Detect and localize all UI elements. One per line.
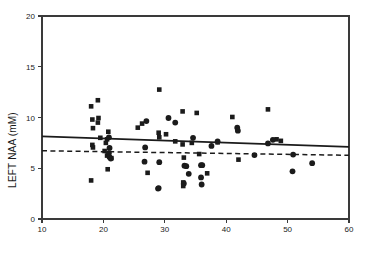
x-tick-label: 20 xyxy=(99,225,108,234)
dashed-regression-line xyxy=(42,151,349,155)
data-point-square xyxy=(91,145,96,150)
data-point-circle xyxy=(198,174,204,180)
y-axis-title: LEFT NAA (mM) xyxy=(7,112,18,188)
data-point-square xyxy=(90,117,95,122)
data-point-square xyxy=(197,152,202,157)
data-point-circle xyxy=(142,159,148,165)
data-point-circle xyxy=(209,143,215,149)
x-tick-label: 30 xyxy=(160,225,169,234)
data-point-square xyxy=(279,139,284,144)
y-tick-label: 10 xyxy=(26,114,35,123)
data-point-circle xyxy=(142,145,148,151)
data-point-square xyxy=(164,132,169,137)
y-tick-label: 5 xyxy=(31,164,36,173)
data-point-square xyxy=(145,171,150,176)
data-point-square xyxy=(173,139,178,144)
data-point-square xyxy=(91,126,96,131)
data-point-circle xyxy=(106,134,112,140)
axes-frame xyxy=(42,16,349,219)
data-point-circle xyxy=(270,137,276,143)
scatter-plot-figure: 102030405060 05101520 LEFT NAA (mM) xyxy=(0,0,371,258)
data-point-circle xyxy=(235,128,241,134)
data-point-circle xyxy=(190,135,196,141)
y-axis-title-group: LEFT NAA (mM) xyxy=(7,112,18,188)
data-point-square xyxy=(96,120,101,125)
data-point-square xyxy=(205,171,210,176)
y-tick-label: 0 xyxy=(31,215,36,224)
x-tick-label: 10 xyxy=(38,225,47,234)
data-point-circle xyxy=(215,138,221,144)
data-point-circle xyxy=(309,160,315,166)
data-point-circle xyxy=(265,140,271,146)
data-point-circle xyxy=(107,145,113,151)
plot-canvas: 102030405060 05101520 LEFT NAA (mM) xyxy=(0,0,371,258)
data-point-square xyxy=(180,109,185,114)
axis-frame-path xyxy=(42,16,349,219)
data-point-square xyxy=(135,125,140,130)
x-tick-label: 40 xyxy=(222,225,231,234)
data-point-square xyxy=(89,178,94,183)
data-point-square xyxy=(156,130,161,135)
data-point-circle xyxy=(199,162,205,168)
data-point-circle xyxy=(108,156,114,162)
y-tick-label: 15 xyxy=(26,63,35,72)
data-point-square xyxy=(236,157,241,162)
data-point-circle xyxy=(143,118,149,124)
data-point-square xyxy=(230,115,235,120)
data-point-square xyxy=(180,142,185,147)
data-point-circle xyxy=(186,171,192,177)
data-point-circle xyxy=(183,163,189,169)
data-point-square xyxy=(157,135,162,140)
data-point-circle xyxy=(181,181,187,187)
data-point-circle xyxy=(172,120,178,126)
data-point-circle xyxy=(156,159,162,165)
data-point-square xyxy=(105,167,110,172)
data-point-square xyxy=(98,136,103,141)
data-point-square xyxy=(182,155,187,160)
y-tick-label: 20 xyxy=(26,12,35,21)
data-point-circle xyxy=(156,185,162,191)
data-point-circle xyxy=(290,168,296,174)
x-tick-label: 60 xyxy=(345,225,354,234)
y-axis-ticks: 05101520 xyxy=(26,12,42,224)
data-point-square xyxy=(157,87,162,92)
data-point-circle xyxy=(252,152,258,158)
x-tick-label: 50 xyxy=(283,225,292,234)
data-point-square xyxy=(190,141,195,146)
data-point-square xyxy=(89,104,94,109)
data-point-square xyxy=(96,116,101,121)
data-point-square xyxy=(194,111,199,116)
data-point-square xyxy=(266,107,271,112)
data-point-square xyxy=(96,98,101,103)
data-point-square xyxy=(106,129,111,134)
data-point-circle xyxy=(199,182,205,188)
data-point-circle xyxy=(290,152,296,158)
data-point-square xyxy=(104,141,109,146)
x-axis-ticks: 102030405060 xyxy=(38,219,354,234)
data-point-circle xyxy=(166,115,172,121)
